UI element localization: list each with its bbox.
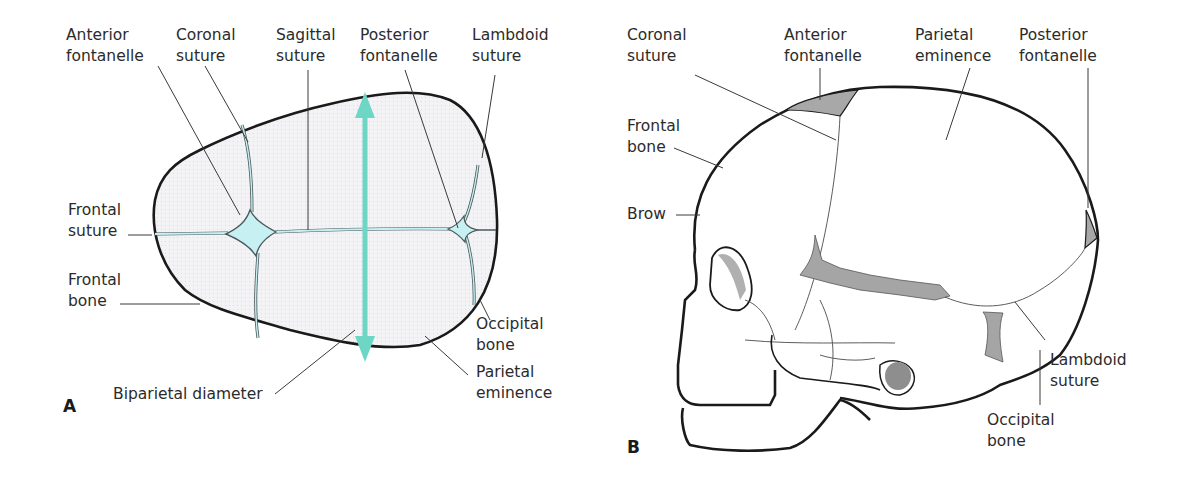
label-lambdoid-suture-2: suture — [472, 47, 521, 65]
label-frontal-suture-1: Frontal — [68, 201, 121, 219]
svg-text:Coronal: Coronal — [627, 26, 686, 44]
svg-text:suture: suture — [176, 47, 225, 65]
svg-text:suture: suture — [1050, 372, 1099, 390]
label-frontal-suture-2: suture — [68, 222, 117, 240]
svg-text:bone: bone — [476, 336, 515, 354]
panel-letter-a: A — [63, 396, 77, 416]
label-b-posterior-fontanelle-2: fontanelle — [1019, 47, 1097, 65]
label-frontal-bone-2: bone — [68, 292, 107, 310]
svg-text:suture: suture — [276, 47, 325, 65]
orbit — [710, 247, 752, 310]
panel-b-labels: Coronal suture Anterior fontanelle Parie… — [627, 26, 1127, 457]
svg-text:Lambdoid: Lambdoid — [1050, 351, 1127, 369]
label-parietal-eminence-1: Parietal — [476, 363, 534, 381]
svg-text:eminence: eminence — [915, 47, 991, 65]
label-b-lambdoid-suture-2: suture — [1050, 372, 1099, 390]
svg-text:Coronal: Coronal — [176, 26, 235, 44]
svg-text:Frontal: Frontal — [627, 117, 680, 135]
label-occipital-bone-1: Occipital — [476, 315, 544, 333]
svg-text:fontanelle: fontanelle — [784, 47, 862, 65]
label-b-occipital-bone-2: bone — [987, 432, 1026, 450]
svg-text:bone: bone — [68, 292, 107, 310]
label-b-frontal-bone-2: bone — [627, 138, 666, 156]
label-b-coronal-suture-1: Coronal — [627, 26, 686, 44]
label-b-anterior-fontanelle-2: fontanelle — [784, 47, 862, 65]
svg-text:Occipital: Occipital — [987, 411, 1055, 429]
label-b-anterior-fontanelle-1: Anterior — [784, 26, 847, 44]
svg-text:Posterior: Posterior — [1019, 26, 1088, 44]
svg-text:Frontal: Frontal — [68, 201, 121, 219]
svg-text:Occipital: Occipital — [476, 315, 544, 333]
label-coronal-suture-1: Coronal — [176, 26, 235, 44]
label-posterior-fontanelle-2: fontanelle — [360, 47, 438, 65]
svg-text:suture: suture — [627, 47, 676, 65]
label-b-coronal-suture-2: suture — [627, 47, 676, 65]
label-b-occipital-bone-1: Occipital — [987, 411, 1055, 429]
panel-a-skull-top-view — [120, 66, 497, 394]
label-frontal-bone-1: Frontal — [68, 271, 121, 289]
label-b-frontal-bone-1: Frontal — [627, 117, 680, 135]
svg-text:fontanelle: fontanelle — [360, 47, 438, 65]
svg-text:bone: bone — [987, 432, 1026, 450]
svg-text:suture: suture — [472, 47, 521, 65]
label-b-posterior-fontanelle-1: Posterior — [1019, 26, 1088, 44]
label-lambdoid-suture-1: Lambdoid — [472, 26, 549, 44]
svg-text:Sagittal: Sagittal — [276, 26, 335, 44]
label-sagittal-suture-1: Sagittal — [276, 26, 335, 44]
label-occipital-bone-2: bone — [476, 336, 515, 354]
svg-text:Anterior: Anterior — [784, 26, 847, 44]
label-b-brow: Brow — [627, 205, 666, 223]
label-posterior-fontanelle-1: Posterior — [360, 26, 429, 44]
svg-text:Parietal: Parietal — [476, 363, 534, 381]
svg-text:Parietal: Parietal — [915, 26, 973, 44]
svg-text:Posterior: Posterior — [360, 26, 429, 44]
anterior-fontanelle-side — [786, 90, 858, 116]
label-b-parietal-eminence-2: eminence — [915, 47, 991, 65]
svg-text:Lambdoid: Lambdoid — [472, 26, 549, 44]
svg-text:Frontal: Frontal — [68, 271, 121, 289]
label-b-lambdoid-suture-1: Lambdoid — [1050, 351, 1127, 369]
svg-text:bone: bone — [627, 138, 666, 156]
skull-outline-top — [154, 93, 497, 347]
panel-letter-b: B — [627, 437, 640, 457]
label-b-parietal-eminence-1: Parietal — [915, 26, 973, 44]
svg-text:suture: suture — [68, 222, 117, 240]
svg-text:fontanelle: fontanelle — [66, 47, 144, 65]
panel-b-skull-side-view — [674, 68, 1098, 451]
label-coronal-suture-2: suture — [176, 47, 225, 65]
svg-text:fontanelle: fontanelle — [1019, 47, 1097, 65]
skull-diagram: Anterior fontanelle Coronal suture Sagit… — [0, 0, 1193, 483]
svg-text:Anterior: Anterior — [66, 26, 129, 44]
label-parietal-eminence-2: eminence — [476, 384, 552, 402]
label-sagittal-suture-2: suture — [276, 47, 325, 65]
label-anterior-fontanelle-1: Anterior — [66, 26, 129, 44]
label-biparietal-diameter: Biparietal diameter — [113, 385, 263, 403]
svg-text:eminence: eminence — [476, 384, 552, 402]
label-anterior-fontanelle-2: fontanelle — [66, 47, 144, 65]
